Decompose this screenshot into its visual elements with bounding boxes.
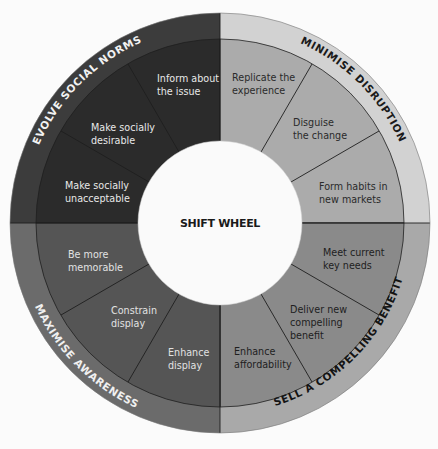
svg-text:key needs: key needs <box>323 260 372 271</box>
svg-text:affordability: affordability <box>234 359 292 370</box>
svg-text:Constrain: Constrain <box>111 305 157 316</box>
svg-text:Deliver new: Deliver new <box>290 304 347 315</box>
svg-text:Replicate the: Replicate the <box>232 72 295 83</box>
svg-text:new markets: new markets <box>319 194 381 205</box>
svg-text:Disguise: Disguise <box>293 117 334 128</box>
svg-text:experience: experience <box>232 85 285 96</box>
svg-text:desirable: desirable <box>91 135 135 146</box>
svg-text:Inform about: Inform about <box>157 73 219 84</box>
shift-wheel-diagram: SHIFT WHEEL EVOLVE SOCIAL NORMS MINIMISE… <box>0 0 438 449</box>
svg-text:Be more: Be more <box>68 249 108 260</box>
svg-text:the change: the change <box>293 130 347 141</box>
center-title: SHIFT WHEEL <box>180 217 260 230</box>
svg-text:Enhance: Enhance <box>168 347 209 358</box>
svg-text:display: display <box>111 318 145 329</box>
svg-text:Make socially: Make socially <box>65 180 129 191</box>
svg-text:compelling: compelling <box>290 317 343 328</box>
svg-text:Enhance: Enhance <box>234 346 275 357</box>
svg-text:memorable: memorable <box>68 262 123 273</box>
svg-text:unacceptable: unacceptable <box>65 193 130 204</box>
svg-text:the issue: the issue <box>157 86 201 97</box>
svg-text:benefit: benefit <box>290 330 324 341</box>
svg-text:display: display <box>168 360 202 371</box>
svg-text:Form habits in: Form habits in <box>319 181 388 192</box>
svg-text:Meet current: Meet current <box>323 247 385 258</box>
svg-text:Make socially: Make socially <box>91 122 155 133</box>
